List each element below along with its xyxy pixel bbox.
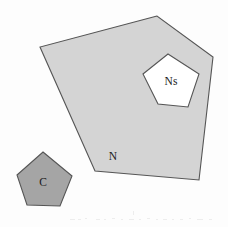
polygon-diagram: N Ns C [0,0,228,227]
region-c-label: C [39,176,47,188]
region-ns-label: Ns [165,75,178,87]
figure-canvas: N Ns C [0,0,228,227]
region-n-label: N [109,150,118,162]
